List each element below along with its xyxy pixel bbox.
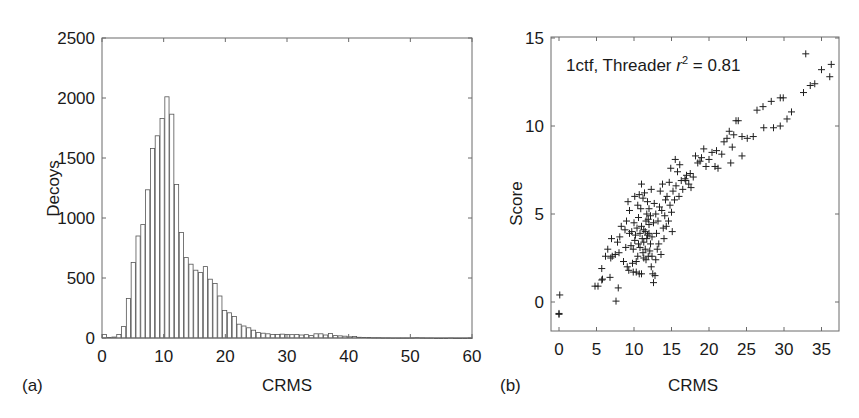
scatter-point bbox=[712, 163, 719, 170]
scatter-x-tick: 35 bbox=[812, 341, 831, 358]
scatter-point bbox=[682, 177, 689, 184]
scatter-point bbox=[682, 175, 689, 182]
scatter-point bbox=[647, 240, 654, 247]
scatter-point bbox=[556, 291, 563, 298]
scatter-y-tick: 10 bbox=[525, 118, 544, 135]
scatter-point bbox=[754, 107, 761, 114]
scatter-point bbox=[662, 196, 669, 203]
scatter-y-tick: 5 bbox=[535, 206, 544, 223]
scatter-point bbox=[750, 133, 757, 140]
scatter-point bbox=[612, 251, 619, 258]
scatter-x-tick: 30 bbox=[775, 341, 794, 358]
scatter-point bbox=[679, 186, 686, 193]
scatter-point bbox=[556, 310, 563, 317]
scatter-point bbox=[739, 133, 746, 140]
scatter-point bbox=[650, 219, 657, 226]
scatter-point bbox=[700, 145, 707, 152]
scatter-point bbox=[672, 156, 679, 163]
scatter-point bbox=[715, 165, 722, 172]
scatter-point bbox=[788, 108, 795, 115]
scatter-point bbox=[607, 274, 614, 281]
scatter-point bbox=[703, 163, 710, 170]
scatter-x-tick: 25 bbox=[737, 341, 756, 358]
scatter-point bbox=[635, 240, 642, 247]
scatter-point bbox=[623, 218, 630, 225]
scatter-point bbox=[636, 191, 643, 198]
scatter-point bbox=[631, 219, 638, 226]
scatter-point bbox=[652, 211, 659, 218]
scatter-point bbox=[613, 298, 620, 305]
scatter-point bbox=[730, 131, 737, 138]
scatter-point bbox=[811, 80, 818, 87]
scatter-point bbox=[626, 207, 633, 214]
scatter-point bbox=[632, 232, 639, 239]
scatter-point bbox=[667, 165, 674, 172]
scatter-point bbox=[640, 195, 647, 202]
scatter-point bbox=[668, 209, 675, 216]
scatter-point bbox=[671, 196, 678, 203]
scatter-point bbox=[673, 182, 680, 189]
scatter-y-tick: 15 bbox=[525, 30, 544, 47]
scatter-point bbox=[690, 174, 697, 181]
scatter-x-tick: 0 bbox=[554, 341, 563, 358]
scatter-point bbox=[644, 198, 651, 205]
panel-b-label: (b) bbox=[500, 377, 521, 394]
scatter-point bbox=[674, 168, 681, 175]
scatter-point bbox=[633, 269, 640, 276]
scatter-point bbox=[637, 205, 644, 212]
scatter-point bbox=[727, 159, 734, 166]
scatter-point bbox=[635, 214, 642, 221]
scatter-point bbox=[631, 193, 638, 200]
scatter-point bbox=[709, 149, 716, 156]
scatter-x-tick: 20 bbox=[700, 341, 719, 358]
scatter-point bbox=[616, 249, 623, 256]
scatter-point bbox=[637, 244, 644, 251]
scatter-point bbox=[609, 253, 616, 260]
scatter-point bbox=[653, 230, 660, 237]
scatter-y-tick: 0 bbox=[535, 294, 544, 311]
scatter-point bbox=[669, 228, 676, 235]
scatter-point bbox=[692, 152, 699, 159]
scatter-point bbox=[777, 123, 784, 130]
scatter-point bbox=[818, 66, 825, 73]
scatter-point bbox=[615, 284, 622, 291]
scatter-point bbox=[634, 225, 641, 232]
scatter-point bbox=[604, 246, 611, 253]
scatter-point bbox=[654, 246, 661, 253]
scatter-point bbox=[721, 138, 728, 145]
scatter-point bbox=[760, 124, 767, 131]
scatter-point bbox=[724, 135, 731, 142]
scatter-x-tick: 15 bbox=[662, 341, 681, 358]
scatter-point bbox=[634, 202, 641, 209]
scatter-point bbox=[807, 82, 814, 89]
scatter-point bbox=[608, 235, 615, 242]
scatter-point bbox=[660, 225, 667, 232]
scatter-point bbox=[739, 152, 746, 159]
scatter-point bbox=[659, 181, 666, 188]
scatter-point bbox=[622, 226, 629, 233]
scatter-point bbox=[602, 253, 609, 260]
scatter-point bbox=[646, 221, 653, 228]
scatter-point bbox=[676, 161, 683, 168]
scatter-point bbox=[631, 237, 638, 244]
scatter-point bbox=[625, 267, 632, 274]
scatter-point bbox=[784, 115, 791, 122]
scatter-point bbox=[706, 156, 713, 163]
scatter-point bbox=[744, 135, 751, 142]
scatter-point bbox=[667, 202, 674, 209]
scatter-point bbox=[648, 186, 655, 193]
scatter-point bbox=[640, 239, 647, 246]
scatter-point bbox=[599, 276, 606, 283]
scatter-point bbox=[625, 198, 632, 205]
scatter-point bbox=[650, 279, 657, 286]
scatter-point bbox=[657, 188, 664, 195]
scatter-annotation: 1ctf, Threader r2 = 0.81 bbox=[566, 52, 741, 74]
scatter-point bbox=[651, 200, 658, 207]
scatter-point bbox=[687, 170, 694, 177]
scatter-point bbox=[718, 151, 725, 158]
scatter-point bbox=[729, 144, 736, 151]
scatter-point bbox=[658, 251, 665, 258]
scatter-point bbox=[670, 188, 677, 195]
scatter-point bbox=[620, 258, 627, 265]
scatter-point bbox=[802, 50, 809, 57]
